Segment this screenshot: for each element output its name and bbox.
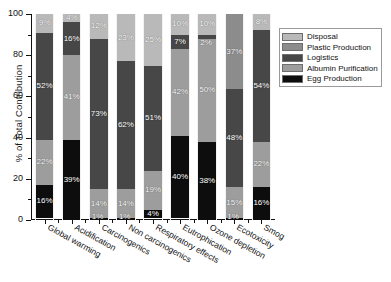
legend-label: Plastic Production (307, 43, 371, 52)
bar-segment[interactable]: 54% (253, 30, 271, 141)
bar-segment[interactable]: 37% (226, 14, 244, 89)
bar-ozone-depletion[interactable]: 10%2%50%38% (197, 14, 217, 220)
plot-area: 020406080100 9%52%22%16%4%16%41%39%12%73… (31, 14, 275, 220)
segment-value-label: 52% (37, 82, 53, 90)
segment-value-label: 37% (226, 48, 242, 56)
bar-segment[interactable]: 51% (144, 66, 162, 171)
legend-label: Albumin Purification (307, 64, 378, 73)
segment-value-label: 22% (37, 158, 53, 166)
bar-segment[interactable]: 4% (144, 210, 162, 218)
bars-layer: 9%52%22%16%4%16%41%39%12%73%14%1%23%62%1… (31, 14, 275, 220)
bar-segment[interactable]: 16% (63, 22, 81, 55)
stacked-bar-chart: % of Total Contribution 020406080100 9%5… (0, 0, 391, 282)
bar-respiratory-effects[interactable]: 25%51%19%4% (143, 14, 163, 220)
segment-value-label: 22% (253, 160, 269, 168)
segment-value-label: 7% (174, 38, 186, 46)
legend-swatch (282, 75, 303, 83)
bar-segment[interactable]: 73% (90, 39, 108, 189)
bar-eutrophication[interactable]: 10%7%42%40% (170, 14, 190, 220)
bar-segment[interactable]: 8% (253, 14, 271, 30)
segment-value-label: 50% (199, 86, 215, 94)
segment-value-label: 16% (253, 199, 269, 207)
bar-segment[interactable]: 4% (63, 14, 81, 22)
segment-value-label: 14% (91, 200, 107, 208)
bar-segment[interactable]: 41% (63, 55, 81, 139)
legend-swatch (282, 64, 303, 72)
y-tick-label: 60 (13, 90, 23, 100)
bar-segment[interactable]: 15% (226, 187, 244, 218)
segment-value-label: 10% (199, 20, 215, 28)
segment-value-label: 54% (253, 82, 269, 90)
segment-value-label: 10% (172, 20, 188, 28)
y-tick-label: 100 (8, 8, 23, 18)
bar-segment[interactable]: 14% (90, 189, 108, 218)
segment-value-label: 15% (226, 199, 242, 207)
bar-segment[interactable]: 52% (36, 33, 54, 140)
bar-segment[interactable]: 22% (36, 140, 54, 185)
segment-value-label: 14% (118, 200, 134, 208)
segment-value-label: 40% (172, 173, 188, 181)
bar-segment[interactable]: 62% (117, 61, 135, 189)
legend-label: Egg Production (307, 74, 362, 83)
bar-segment[interactable]: 10% (171, 14, 189, 35)
y-tick-label: 0 (18, 214, 23, 224)
bar-segment[interactable]: 38% (198, 142, 216, 220)
bar-ecotoxicity[interactable]: 37%48%15%1% (225, 14, 245, 220)
segment-value-label: 19% (145, 186, 161, 194)
bar-acidification[interactable]: 4%16%41%39% (62, 14, 82, 220)
bar-segment[interactable]: 19% (144, 171, 162, 210)
segment-value-label: 16% (64, 35, 80, 43)
legend-item[interactable]: Disposal (282, 32, 378, 42)
bar-segment[interactable]: 39% (63, 140, 81, 220)
bar-segment[interactable]: 25% (144, 14, 162, 66)
legend-swatch (282, 54, 303, 62)
segment-value-label: 4% (66, 14, 78, 22)
legend-swatch (282, 33, 303, 41)
bar-segment[interactable]: 16% (36, 185, 54, 218)
bar-non-carcinogenics[interactable]: 23%62%14%1% (116, 14, 136, 220)
bar-segment[interactable]: 16% (253, 187, 271, 220)
x-axis-category-labels: Global warmingAcidificationCarcinogenics… (31, 222, 275, 282)
legend-item[interactable]: Logistics (282, 53, 378, 63)
legend-swatch (282, 43, 303, 51)
segment-value-label: 12% (91, 22, 107, 30)
segment-value-label: 9% (39, 19, 51, 27)
bar-segment[interactable]: 42% (171, 49, 189, 136)
segment-value-label: 48% (226, 134, 242, 142)
bar-segment[interactable]: 40% (171, 136, 189, 218)
legend-item[interactable]: Egg Production (282, 74, 378, 84)
legend-item[interactable]: Albumin Purification (282, 63, 378, 73)
segment-value-label: 16% (37, 197, 53, 205)
bar-segment[interactable]: 9% (36, 14, 54, 33)
segment-value-label: 4% (147, 210, 159, 218)
bar-carcinogenics[interactable]: 12%73%14%1% (89, 14, 109, 220)
bar-segment[interactable]: 22% (253, 142, 271, 187)
bar-segment[interactable]: 12% (90, 14, 108, 39)
bar-segment[interactable]: 50% (198, 39, 216, 142)
y-tick: 0 (26, 220, 31, 221)
bar-segment[interactable]: 23% (117, 14, 135, 61)
segment-value-label: 23% (118, 34, 134, 42)
y-tick-label: 80 (13, 49, 23, 59)
bar-segment[interactable]: 7% (171, 35, 189, 49)
segment-value-label: 41% (64, 93, 80, 101)
y-tick-label: 40 (13, 132, 23, 142)
bar-segment[interactable]: 1% (117, 218, 135, 220)
bar-segment[interactable]: 1% (226, 218, 244, 220)
segment-value-label: 51% (145, 114, 161, 122)
segment-value-label: 38% (199, 177, 215, 185)
segment-value-label: 62% (118, 121, 134, 129)
bar-global-warming[interactable]: 9%52%22%16% (35, 14, 55, 220)
segment-value-label: 8% (256, 18, 268, 26)
legend-label: Disposal (307, 32, 338, 41)
chart-legend: DisposalPlastic ProductionLogisticsAlbum… (279, 28, 382, 87)
bar-segment[interactable]: 48% (226, 89, 244, 187)
bar-smog[interactable]: 8%54%22%16% (252, 14, 272, 220)
bar-segment[interactable]: 1% (90, 218, 108, 220)
bar-segment[interactable]: 10% (198, 14, 216, 35)
segment-value-label: 73% (91, 110, 107, 118)
legend-label: Logistics (307, 53, 338, 62)
legend-item[interactable]: Plastic Production (282, 42, 378, 52)
bar-segment[interactable]: 14% (117, 189, 135, 218)
segment-value-label: 42% (172, 88, 188, 96)
